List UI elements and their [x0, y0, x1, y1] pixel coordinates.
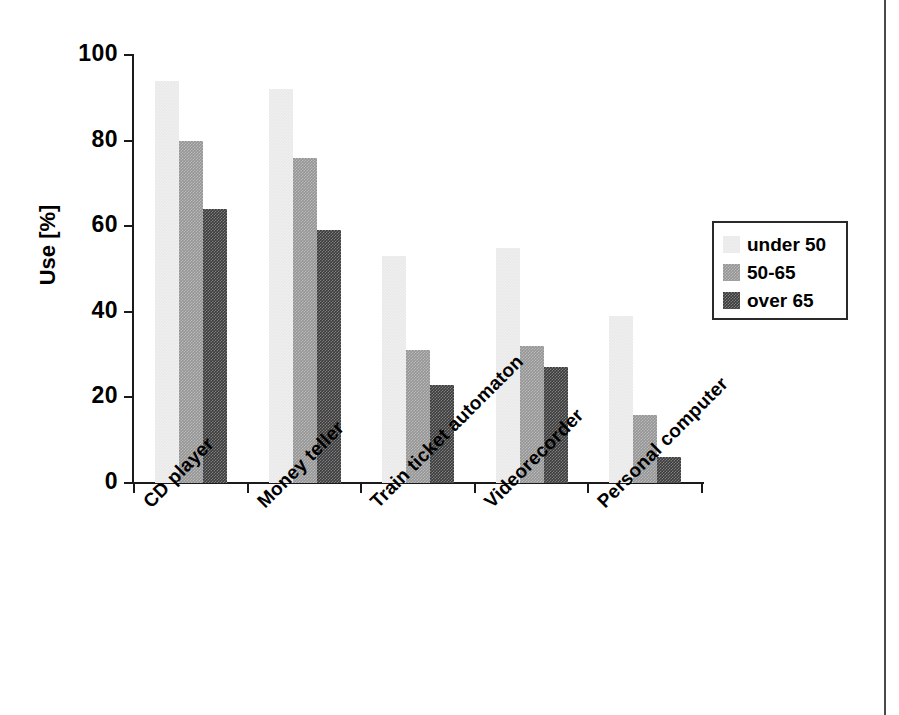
legend-item: 50-65: [723, 258, 846, 286]
x-tick-mark: [474, 483, 476, 493]
legend: under 5050-65over 65: [712, 221, 848, 320]
y-tick-label: 60: [56, 213, 118, 237]
x-tick-mark: [587, 483, 589, 493]
y-tick-label-text: 0: [62, 470, 118, 493]
x-tick-mark: [360, 483, 362, 493]
y-tick-label-text: 60: [62, 213, 118, 236]
bar: [609, 316, 633, 483]
plot-area: [133, 55, 701, 483]
y-tick-mark: [124, 54, 133, 56]
y-tick-label-text: 80: [62, 128, 118, 151]
x-tick-mark: [247, 483, 249, 493]
bar: [179, 141, 203, 483]
legend-swatch-icon: [723, 236, 740, 253]
bar: [269, 89, 293, 483]
bar: [155, 81, 179, 483]
chart-page: Use [%] 020406080100 CD playerMoney tell…: [0, 0, 899, 715]
bar: [657, 457, 681, 483]
x-tick-mark: [701, 483, 703, 493]
y-axis-title: Use [%]: [35, 175, 61, 315]
y-tick-label: 100: [56, 42, 118, 66]
y-tick-mark: [124, 225, 133, 227]
y-tick-label: 40: [56, 299, 118, 323]
legend-item-label: 50-65: [747, 263, 796, 282]
y-tick-label-text: 20: [62, 384, 118, 407]
y-tick-label: 80: [56, 128, 118, 152]
legend-swatch-icon: [723, 264, 740, 281]
y-tick-label: 20: [56, 384, 118, 408]
y-tick-mark: [124, 396, 133, 398]
legend-item-label: over 65: [747, 291, 814, 310]
y-tick-label-text: 100: [62, 42, 118, 65]
y-tick-label: 0: [56, 470, 118, 494]
y-tick-mark: [124, 311, 133, 313]
y-tick-label-text: 40: [62, 299, 118, 322]
legend-item-label: under 50: [747, 235, 826, 254]
legend-swatch-icon: [723, 292, 740, 309]
bar: [382, 256, 406, 483]
bar: [293, 158, 317, 483]
y-tick-mark: [124, 140, 133, 142]
page-edge-line: [884, 0, 886, 715]
legend-item: under 50: [723, 230, 846, 258]
y-tick-mark: [124, 482, 133, 484]
x-tick-mark: [133, 483, 135, 493]
legend-item: over 65: [723, 286, 846, 314]
